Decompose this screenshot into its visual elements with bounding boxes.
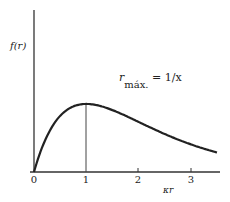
curve <box>34 104 217 172</box>
tick-label-1: 1 <box>83 174 89 185</box>
x-axis-label: κr <box>163 185 173 195</box>
annotation: rmáx. = 1/x <box>119 75 182 88</box>
tick-label-2: 2 <box>135 174 141 185</box>
tick-label-3: 3 <box>188 174 194 185</box>
annotation-sub: máx. <box>124 79 148 90</box>
chart-canvas <box>0 0 230 202</box>
annotation-eq: = 1/x <box>152 71 182 84</box>
tick-label-0: 0 <box>31 174 37 185</box>
y-axis-label: f(r) <box>10 40 26 51</box>
